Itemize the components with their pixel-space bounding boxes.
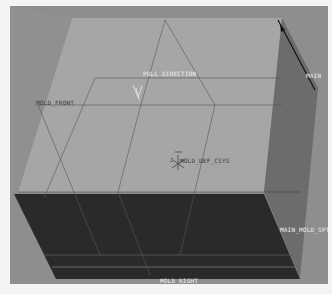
mold-right-label: MOLD_RIGHT (160, 277, 198, 284)
main-mold-spt-label: MAIN_MOLD_SPT (280, 226, 330, 233)
pull-direction-label: PULL DIRECTION (143, 70, 196, 77)
mold-front-label: MOLD_FRONT (36, 99, 74, 106)
mold-model[interactable] (0, 0, 332, 294)
front-face[interactable] (14, 194, 300, 279)
main-label: MAIN (306, 72, 321, 79)
csys-axis-label: Z (170, 157, 173, 164)
csys-label: MOLD_DEF_CSYS (180, 157, 230, 164)
